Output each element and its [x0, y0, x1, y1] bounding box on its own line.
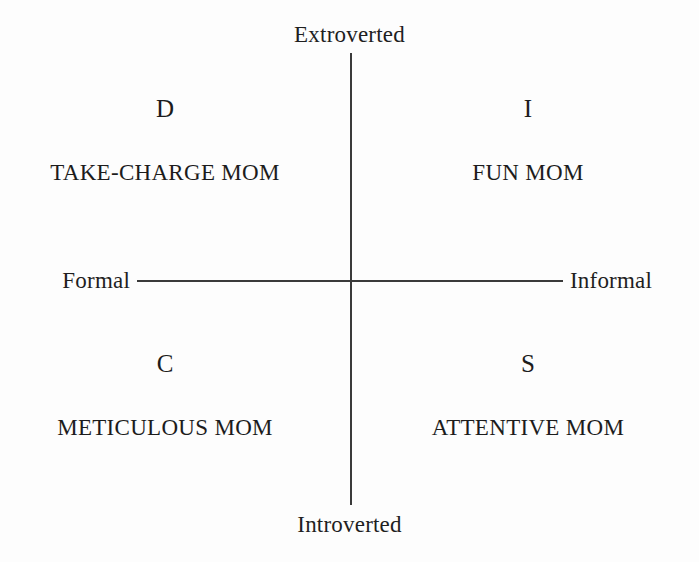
quadrant-top-left: D TAKE-CHARGE MOM — [0, 96, 330, 184]
axis-label-extroverted: Extroverted — [0, 22, 699, 48]
quadrant-letter-i: I — [363, 96, 693, 121]
quadrant-top-right: I FUN MOM — [363, 96, 693, 184]
quadrant-letter-c: C — [0, 351, 330, 376]
axis-label-informal: Informal — [570, 268, 652, 294]
horizontal-axis-line — [137, 280, 563, 282]
quadrant-name-attentive-mom: ATTENTIVE MOM — [363, 416, 693, 439]
quadrant-name-meticulous-mom: METICULOUS MOM — [0, 416, 330, 439]
axis-label-formal: Formal — [0, 268, 130, 294]
quadrant-name-fun-mom: FUN MOM — [363, 161, 693, 184]
quadrant-letter-s: S — [363, 351, 693, 376]
quadrant-bottom-left: C METICULOUS MOM — [0, 351, 330, 439]
quadrant-letter-d: D — [0, 96, 330, 121]
axis-label-introverted: Introverted — [0, 512, 699, 538]
vertical-axis-line — [350, 53, 352, 505]
quadrant-diagram: Extroverted Introverted Formal Informal … — [0, 0, 699, 562]
quadrant-name-take-charge-mom: TAKE-CHARGE MOM — [0, 161, 330, 184]
quadrant-bottom-right: S ATTENTIVE MOM — [363, 351, 693, 439]
